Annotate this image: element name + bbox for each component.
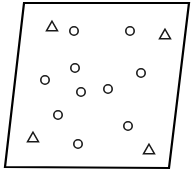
circle-marker [54, 111, 62, 119]
figure-container [0, 0, 194, 181]
circle-marker [41, 76, 49, 84]
quadrilateral-region [5, 3, 189, 168]
circle-marker [74, 140, 82, 148]
circle-marker [137, 69, 145, 77]
circle-marker [124, 122, 132, 130]
circle-marker [70, 27, 78, 35]
circle-marker [126, 27, 134, 35]
circle-marker [104, 85, 112, 93]
circle-marker [71, 64, 79, 72]
scatter-figure [0, 0, 194, 181]
circle-marker [77, 88, 85, 96]
